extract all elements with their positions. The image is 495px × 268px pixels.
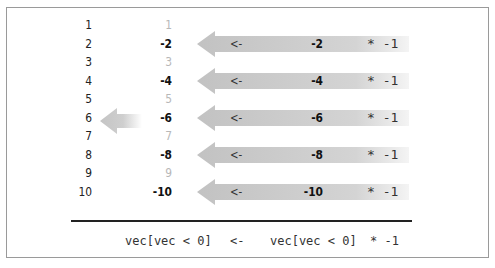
multiplier: * -1 bbox=[367, 147, 398, 163]
index-label: 5 bbox=[67, 91, 92, 107]
source-value: -4 bbox=[290, 73, 323, 89]
multiplier: * -1 bbox=[367, 110, 398, 126]
source-value: -6 bbox=[290, 110, 323, 126]
index-label: 10 bbox=[67, 184, 92, 200]
index-label: 6 bbox=[67, 110, 92, 126]
index-label: 2 bbox=[67, 36, 92, 52]
source-value: -8 bbox=[290, 147, 323, 163]
code-multiplier: * -1 bbox=[370, 233, 399, 249]
index-label: 9 bbox=[67, 165, 92, 181]
code-lhs: vec[vec < 0] bbox=[125, 233, 212, 249]
source-value: -2 bbox=[290, 36, 323, 52]
vector-value-negative: -6 bbox=[139, 110, 172, 126]
vector-value: 3 bbox=[139, 54, 172, 70]
selection-arrow-icon bbox=[100, 108, 142, 134]
index-label: 4 bbox=[67, 73, 92, 89]
vector-value: 9 bbox=[139, 165, 172, 181]
assign-operator: <- bbox=[230, 184, 242, 200]
assign-operator: <- bbox=[230, 110, 242, 126]
index-label: 3 bbox=[67, 54, 92, 70]
vector-value-negative: -4 bbox=[139, 73, 172, 89]
index-label: 8 bbox=[67, 147, 92, 163]
multiplier: * -1 bbox=[367, 73, 398, 89]
vector-value: 1 bbox=[139, 17, 172, 33]
vector-value-negative: -8 bbox=[139, 147, 172, 163]
code-rhs: vec[vec < 0] bbox=[270, 233, 357, 249]
index-label: 7 bbox=[67, 128, 92, 144]
vector-value: 7 bbox=[139, 128, 172, 144]
assign-operator: <- bbox=[230, 73, 242, 89]
assign-operator: <- bbox=[230, 36, 242, 52]
vector-value-negative: -10 bbox=[139, 184, 172, 200]
index-label: 1 bbox=[67, 17, 92, 33]
code-assign-operator: <- bbox=[230, 233, 244, 249]
source-value: -10 bbox=[290, 184, 323, 200]
divider-line bbox=[71, 220, 412, 222]
multiplier: * -1 bbox=[367, 36, 398, 52]
multiplier: * -1 bbox=[367, 184, 398, 200]
vector-value-negative: -2 bbox=[139, 36, 172, 52]
vector-value: 5 bbox=[139, 91, 172, 107]
assign-operator: <- bbox=[230, 147, 242, 163]
